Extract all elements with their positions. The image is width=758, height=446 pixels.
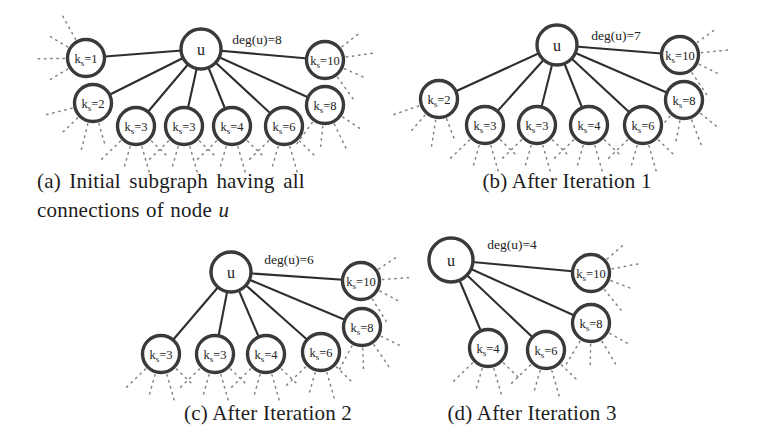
node-label: ks=8: [350, 321, 373, 337]
node-label: ks=6: [534, 344, 557, 360]
hidden-connection-stub: [151, 141, 166, 156]
hidden-connection-stub: [380, 291, 399, 301]
hidden-connection-stub: [612, 264, 639, 269]
hidden-connection-stub: [199, 141, 214, 156]
hidden-connection-stub: [658, 140, 673, 155]
hidden-connection-stub: [197, 141, 216, 160]
node-label: ks=3: [124, 120, 147, 136]
node-label: ks=3: [525, 119, 548, 135]
hidden-connection-stub: [699, 64, 718, 73]
hidden-connection-stub: [552, 371, 559, 397]
hidden-connection-stub: [339, 346, 352, 370]
hidden-connection-stub: [381, 336, 400, 345]
node-label: ks=10: [310, 54, 339, 70]
hidden-connection-stub: [608, 140, 627, 159]
hidden-connection-stub: [230, 369, 245, 384]
caption-a-node-u-symbol: u: [218, 198, 229, 222]
hidden-connection-stub: [149, 141, 168, 160]
hidden-connection-stub: [411, 115, 425, 131]
figure-d: ks=4ks=6ks=8ks=10udeg(u)=4: [429, 237, 639, 397]
hidden-connection-stub: [374, 345, 389, 367]
hidden-connection-stub: [476, 369, 482, 389]
caption-a-line2: connections of node u: [37, 196, 305, 225]
hidden-connection-stub: [676, 121, 680, 142]
hidden-connection-stub: [254, 375, 260, 395]
caption-a-line2-text: connections of node: [37, 198, 218, 222]
hidden-connection-stub: [50, 36, 68, 47]
hidden-connection-stub: [62, 118, 77, 133]
hidden-connection-stub: [577, 146, 583, 166]
node-u-label: u: [227, 264, 235, 281]
figure-panel: ks=1ks=2ks=3ks=3ks=4ks=6ks=8ks=10udeg(u)…: [0, 0, 758, 446]
node-label: ks=10: [576, 267, 605, 283]
hidden-connection-stub: [379, 257, 396, 269]
hidden-connection-stub: [126, 369, 145, 388]
hidden-connection-stub: [697, 30, 714, 42]
hidden-connection-stub: [701, 114, 717, 127]
hidden-connection-stub: [543, 146, 550, 172]
degree-label: deg(u)=8: [232, 32, 282, 47]
hidden-connection-stub: [525, 146, 531, 166]
node-u-label: u: [197, 41, 205, 58]
caption-a: (a) Initial subgraph having all connecti…: [37, 167, 305, 225]
hidden-connection-stub: [511, 365, 530, 384]
hidden-connection-stub: [595, 146, 602, 172]
hidden-connection-stub: [249, 141, 268, 160]
node-label: ks=6: [631, 119, 654, 135]
hidden-connection-stub: [491, 146, 498, 172]
hidden-connection-stub: [101, 141, 120, 160]
node-label: ks=3: [172, 120, 195, 136]
node-label: ks=4: [220, 120, 244, 136]
node-label: ks=3: [149, 348, 172, 364]
hidden-connection-stub: [473, 146, 479, 166]
hidden-connection-stub: [701, 50, 728, 53]
degree-label: deg(u)=7: [591, 28, 641, 43]
hidden-connection-stub: [272, 147, 278, 167]
hidden-connection-stub: [607, 245, 623, 259]
node-label: ks=2: [81, 97, 104, 113]
hidden-connection-stub: [220, 147, 226, 167]
caption-b: (b) After Iteration 1: [482, 169, 651, 194]
degree-label: deg(u)=6: [264, 252, 314, 267]
hidden-connection-stub: [431, 120, 435, 147]
hidden-connection-stub: [566, 341, 580, 364]
node-u-label: u: [447, 252, 455, 269]
hidden-connection-stub: [336, 367, 351, 382]
hidden-connection-stub: [272, 375, 279, 401]
node-label: ks=8: [579, 317, 602, 333]
caption-d: (d) After Iteration 3: [447, 401, 616, 426]
hidden-connection-stub: [611, 281, 631, 289]
node-u-label: u: [553, 37, 561, 54]
hidden-connection-stub: [81, 124, 88, 150]
node-label: ks=1: [74, 52, 97, 68]
node-label: ks=6: [272, 120, 295, 136]
hidden-connection-stub: [447, 119, 455, 139]
hidden-connection-stub: [363, 348, 364, 369]
hidden-connection-stub: [602, 341, 616, 364]
hidden-connection-stub: [534, 371, 540, 391]
hidden-connection-stub: [149, 375, 155, 395]
hidden-connection-stub: [62, 16, 75, 40]
figure-b: ks=2ks=3ks=3ks=4ks=6ks=8ks=10udeg(u)=7: [393, 25, 728, 172]
figure-a: ks=1ks=2ks=3ks=3ks=4ks=6ks=8ks=10udeg(u)…: [38, 16, 374, 173]
hidden-connection-stub: [649, 146, 656, 172]
hidden-connection-stub: [393, 106, 419, 115]
node-label: ks=6: [309, 346, 332, 362]
hidden-connection-stub: [554, 140, 573, 159]
hidden-connection-stub: [346, 53, 373, 57]
hidden-connection-stub: [503, 363, 518, 378]
node-label: ks=4: [476, 342, 500, 358]
hidden-connection-stub: [631, 146, 637, 166]
hidden-connection-stub: [281, 369, 296, 384]
hidden-connection-stub: [327, 373, 334, 399]
node-label: ks=10: [346, 275, 375, 291]
node-label: ks=8: [672, 94, 695, 110]
hidden-connection-stub: [342, 34, 359, 47]
hidden-connection-stub: [167, 375, 174, 401]
hidden-connection-stub: [494, 369, 501, 395]
node-label: ks=10: [665, 49, 694, 65]
hidden-connection-stub: [561, 365, 576, 380]
node-label: ks=2: [427, 93, 450, 109]
hidden-connection-stub: [50, 69, 68, 80]
hidden-connection-stub: [450, 140, 469, 159]
